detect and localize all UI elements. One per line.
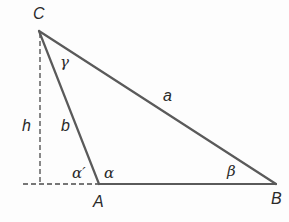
vertex-label-a: A bbox=[92, 193, 104, 210]
altitude-label-h: h bbox=[22, 117, 31, 134]
vertex-label-b: B bbox=[271, 190, 282, 207]
angle-label-beta: β bbox=[226, 162, 236, 180]
side-label-a: a bbox=[163, 87, 172, 104]
angle-label-alpha-prime: α′ bbox=[72, 164, 86, 182]
angle-label-alpha: α bbox=[104, 164, 114, 182]
side-label-b: b bbox=[61, 117, 70, 134]
diagram-svg: C A B a b h γ α′ α β bbox=[0, 0, 289, 222]
triangle-diagram: C A B a b h γ α′ α β bbox=[0, 0, 289, 222]
angle-label-gamma: γ bbox=[60, 53, 69, 71]
vertex-label-c: C bbox=[33, 5, 45, 22]
side-a bbox=[39, 31, 276, 184]
side-b bbox=[39, 31, 99, 184]
